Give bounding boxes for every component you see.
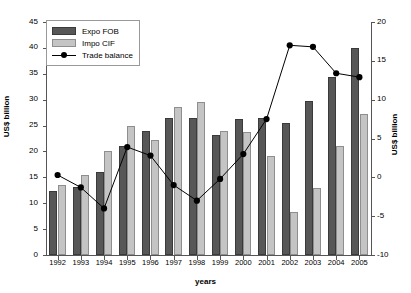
data-point-balance-1994 [101,205,107,211]
axis-tick [43,255,47,256]
y-axis-left-tick-45: 45 [12,17,38,26]
y-axis-right-tick-5: 5 [377,133,403,142]
y-axis-left-tick-35: 35 [12,68,38,77]
data-point-balance-1999 [217,176,223,182]
y-axis-left-tick-20: 20 [12,146,38,155]
axis-spine [46,255,371,256]
x-axis-label-1995: 1995 [114,258,140,267]
x-axis-title: years [0,277,411,286]
data-point-balance-1995 [124,144,130,150]
y-axis-right-tick-20: 20 [377,17,403,26]
data-point-balance-2002 [287,42,293,48]
data-point-balance-2004 [333,70,339,76]
x-axis-label-1997: 1997 [161,258,187,267]
data-point-balance-1993 [78,184,84,190]
x-axis-label-1999: 1999 [207,258,233,267]
legend-item-impo-cif: Impo CIF [52,37,133,49]
x-axis-label-1994: 1994 [91,258,117,267]
y-axis-left-tick-10: 10 [12,198,38,207]
x-axis-label-2000: 2000 [230,258,256,267]
legend-item-expo-fob: Expo FOB [52,25,133,37]
x-axis-label-2002: 2002 [277,258,303,267]
x-axis-label-2003: 2003 [300,258,326,267]
axis-tick [371,216,375,217]
data-point-balance-2003 [310,44,316,50]
axis-tick [371,22,375,23]
x-axis-label-2001: 2001 [254,258,280,267]
y-axis-left-title: US$ billion [2,77,11,157]
y-axis-right-tick-0: 0 [377,172,403,181]
data-point-balance-2000 [240,151,246,157]
data-point-balance-1996 [147,152,153,158]
axis-tick [371,100,375,101]
x-axis-label-2004: 2004 [323,258,349,267]
axis-tick [371,177,375,178]
legend-label-impo: Impo CIF [82,39,115,48]
y-axis-left-tick-25: 25 [12,120,38,129]
chart-legend: Expo FOB Impo CIF Trade balance [46,20,140,66]
y-axis-left-tick-30: 30 [12,94,38,103]
y-axis-left-tick-0: 0 [12,250,38,259]
y-axis-left-tick-15: 15 [12,172,38,181]
legend-swatch-expo-icon [52,27,76,35]
x-axis-label-2005: 2005 [346,258,372,267]
x-axis-label-1996: 1996 [137,258,163,267]
x-axis-label-1992: 1992 [45,258,71,267]
data-point-balance-2001 [263,116,269,122]
legend-item-trade-balance: Trade balance [52,49,133,61]
y-axis-right-tick--10: -10 [377,250,403,259]
data-point-balance-1992 [55,172,61,178]
x-axis-label-1998: 1998 [184,258,210,267]
y-axis-left-tick-5: 5 [12,224,38,233]
y-axis-right-tick-15: 15 [377,55,403,64]
data-point-balance-1997 [171,182,177,188]
axis-tick [371,255,375,256]
data-point-balance-2005 [356,74,362,80]
y-axis-right-tick--5: -5 [377,211,403,220]
data-point-balance-1998 [194,198,200,204]
legend-swatch-impo-icon [52,39,76,47]
chart-container: US$ billion US$ billion years 0510152025… [0,0,411,293]
legend-label-expo: Expo FOB [82,27,119,36]
x-axis-label-1993: 1993 [68,258,94,267]
y-axis-right-tick-10: 10 [377,94,403,103]
legend-line-marker-icon [52,51,76,59]
axis-tick [371,139,375,140]
axis-tick [371,61,375,62]
y-axis-left-tick-40: 40 [12,42,38,51]
legend-label-balance: Trade balance [82,51,133,60]
